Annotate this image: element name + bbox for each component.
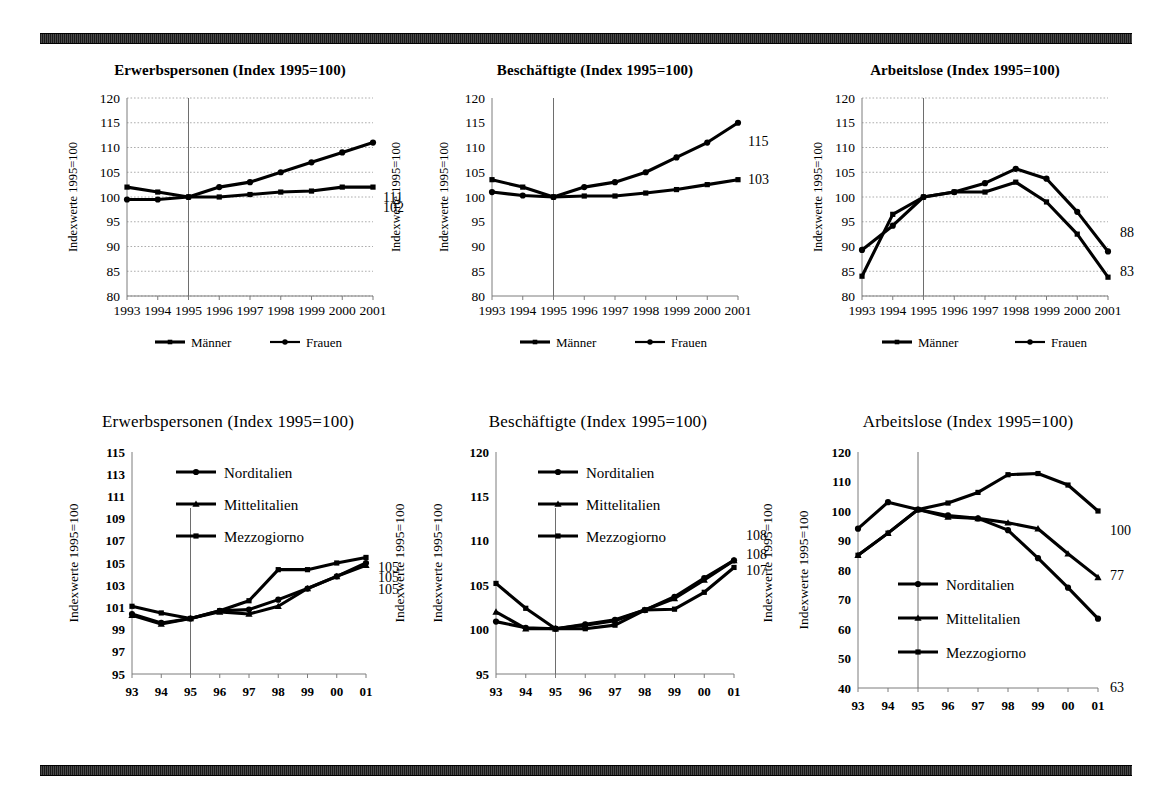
x-tick-label: 94 bbox=[882, 698, 896, 713]
x-tick-label: 94 bbox=[155, 684, 169, 699]
x-tick-label: 01 bbox=[360, 684, 373, 699]
x-tick-label: 1996 bbox=[571, 303, 598, 318]
data-point-square bbox=[1005, 472, 1010, 477]
data-point-square bbox=[705, 182, 710, 187]
x-tick-label: 2000 bbox=[1064, 303, 1091, 318]
y-tick-label: 70 bbox=[838, 592, 851, 607]
data-point-circle bbox=[124, 196, 130, 202]
data-point-square bbox=[188, 616, 193, 621]
data-point-circle bbox=[555, 469, 561, 475]
x-tick-label: 1997 bbox=[237, 303, 264, 318]
y-tick-label: 100 bbox=[470, 622, 490, 637]
chart-beschaeftigte-gender: Beschäftigte (Index 1995=100) 8085909510… bbox=[420, 60, 770, 360]
data-point-square bbox=[247, 192, 252, 197]
y-tick-label: 120 bbox=[470, 445, 490, 460]
legend-label: Mezzogiorno bbox=[586, 529, 666, 545]
x-tick-label: 97 bbox=[243, 684, 257, 699]
x-tick-label: 93 bbox=[490, 684, 504, 699]
x-tick-label: 1994 bbox=[879, 303, 906, 318]
y-tick-label: 101 bbox=[106, 600, 126, 615]
x-tick-label: 1994 bbox=[144, 303, 171, 318]
x-tick-label: 99 bbox=[1032, 698, 1046, 713]
y-tick-label: 90 bbox=[107, 239, 121, 254]
series-end-label: 105 bbox=[378, 560, 399, 575]
data-point-circle bbox=[643, 169, 649, 175]
data-point-square bbox=[1095, 508, 1100, 513]
chart-canvas: 95100105110115120939495969798990001Index… bbox=[418, 412, 778, 742]
chart-title: Arbeitslose (Index 1995=100) bbox=[790, 62, 1140, 79]
series-männer bbox=[859, 180, 1110, 280]
y-tick-label: 105 bbox=[465, 165, 486, 180]
chart-canvas: 8085909510010511011512019931994199519961… bbox=[420, 60, 770, 360]
y-tick-label: 120 bbox=[832, 445, 852, 460]
data-point-circle bbox=[155, 196, 161, 202]
data-point-square bbox=[643, 190, 648, 195]
x-tick-label: 01 bbox=[728, 684, 741, 699]
series-end-label: 83 bbox=[1120, 264, 1134, 279]
data-point-square bbox=[520, 185, 525, 190]
x-tick-label: 2001 bbox=[725, 303, 752, 318]
y-tick-label: 115 bbox=[106, 445, 125, 460]
legend-label: Männer bbox=[191, 335, 232, 350]
x-tick-label: 1997 bbox=[602, 303, 629, 318]
data-point-circle bbox=[647, 339, 652, 344]
data-point-circle bbox=[581, 184, 587, 190]
series-end-label: 63 bbox=[1110, 680, 1124, 695]
chart-erwerbspersonen-region: Erwerbspersonen (Index 1995=100) 9597991… bbox=[48, 412, 408, 742]
y-tick-label: 110 bbox=[465, 140, 485, 155]
legend: MännerFrauen bbox=[155, 335, 343, 350]
y-tick-label: 110 bbox=[100, 140, 120, 155]
chart-arbeitslose-gender: Arbeitslose (Index 1995=100) 80859095100… bbox=[790, 60, 1140, 360]
data-point-circle bbox=[915, 581, 921, 587]
y-tick-label: 95 bbox=[842, 214, 856, 229]
data-point-circle bbox=[1005, 527, 1011, 533]
chart-title: Beschäftigte (Index 1995=100) bbox=[420, 62, 770, 79]
chart-canvas: 405060708090100110120939495969798990001I… bbox=[788, 412, 1148, 742]
y-tick-label: 100 bbox=[100, 190, 121, 205]
y-tick-label: 115 bbox=[100, 115, 120, 130]
series-end-label: 88 bbox=[1120, 225, 1134, 240]
legend-label: Mittelitalien bbox=[224, 497, 299, 513]
y-axis-title: Indexwerte 1995=100 bbox=[66, 142, 80, 252]
y-tick-label: 95 bbox=[107, 214, 121, 229]
legend: NorditalienMittelitalienMezzogiorno bbox=[898, 577, 1026, 661]
data-point-circle bbox=[339, 149, 345, 155]
data-point-square bbox=[915, 507, 920, 512]
data-point-circle bbox=[951, 189, 957, 195]
data-point-square bbox=[334, 560, 339, 565]
chart-canvas: 9597991011031051071091111131159394959697… bbox=[48, 412, 408, 742]
data-point-square bbox=[159, 610, 164, 615]
legend-label: Männer bbox=[556, 335, 597, 350]
data-point-circle bbox=[185, 194, 191, 200]
series-line bbox=[858, 474, 1098, 556]
x-tick-label: 1999 bbox=[298, 303, 325, 318]
x-tick-label: 00 bbox=[330, 684, 343, 699]
x-tick-label: 95 bbox=[549, 684, 563, 699]
legend-label: Mittelitalien bbox=[586, 497, 661, 513]
y-axis-title: Indexwerte 1995=100 bbox=[430, 503, 445, 622]
data-point-square bbox=[582, 193, 587, 198]
y-tick-label: 105 bbox=[835, 165, 856, 180]
y-tick-label: 109 bbox=[106, 511, 126, 526]
data-point-circle bbox=[859, 247, 865, 253]
data-point-square bbox=[583, 626, 588, 631]
data-point-circle bbox=[275, 597, 281, 603]
series-end-label: 77 bbox=[1110, 568, 1124, 583]
y-tick-label: 100 bbox=[465, 190, 486, 205]
y-tick-label: 103 bbox=[106, 578, 126, 593]
data-point-square bbox=[129, 604, 134, 609]
data-point-circle bbox=[885, 499, 891, 505]
x-tick-label: 96 bbox=[579, 684, 593, 699]
data-point-square bbox=[155, 189, 160, 194]
legend-label: Frauen bbox=[306, 335, 343, 350]
x-tick-label: 1993 bbox=[479, 303, 506, 318]
y-tick-label: 85 bbox=[107, 264, 121, 279]
x-tick-label: 1998 bbox=[267, 303, 294, 318]
chart-beschaeftigte-region: Beschäftigte (Index 1995=100) 9510010511… bbox=[418, 412, 778, 742]
x-tick-label: 98 bbox=[638, 684, 652, 699]
data-point-circle bbox=[673, 154, 679, 160]
data-point-square bbox=[1075, 232, 1080, 237]
legend-label: Mezzogiorno bbox=[946, 645, 1026, 661]
data-point-circle bbox=[1074, 209, 1080, 215]
data-point-square bbox=[1044, 199, 1049, 204]
